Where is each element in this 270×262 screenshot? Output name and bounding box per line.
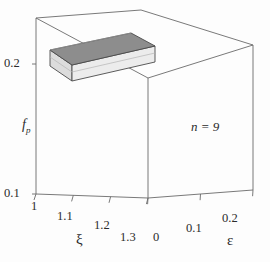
xi-tick-1.2 [109, 197, 111, 203]
eps-tick-label-0.1: 0.1 [186, 222, 202, 235]
box-wireframe [36, 10, 253, 198]
eps-axis-title: ε [227, 233, 233, 248]
z-axis-title-sub: p [26, 125, 31, 135]
axis-ticks [32, 64, 253, 204]
z-tick-label-0.1: 0.1 [4, 187, 20, 200]
xi-tick-label-1: 1 [31, 200, 37, 213]
xi-axis-title: ξ [76, 232, 83, 247]
eps-tick-label-0: 0 [153, 231, 159, 244]
figure-3d-surface-plot: 0.2 0.1 fp 1 1.1 1.2 1.3 ξ 0 0.1 0.2 ε n… [0, 0, 270, 262]
eps-tick-label-0.2: 0.2 [222, 212, 238, 225]
xi-tick-label-1.2: 1.2 [94, 219, 110, 232]
xi-tick-label-1.3: 1.3 [120, 231, 136, 244]
box-edge-bottom-left [36, 194, 148, 198]
z-axis-title: fp [22, 118, 30, 135]
n-value-annotation: n = 9 [191, 120, 219, 133]
xi-tick-1.1 [72, 195, 74, 201]
xi-tick-label-1.1: 1.1 [57, 210, 73, 223]
z-tick-label-0.2: 0.2 [4, 57, 20, 70]
